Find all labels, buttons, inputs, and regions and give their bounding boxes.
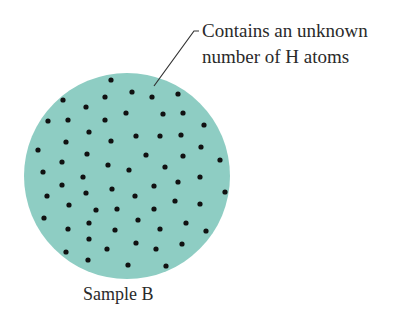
h-atom-dot xyxy=(65,226,70,231)
h-atom-dot xyxy=(93,207,98,212)
h-atom-dot xyxy=(217,157,222,162)
h-atom-dot xyxy=(198,144,203,149)
h-atom-dot xyxy=(201,122,206,127)
h-atom-dot xyxy=(197,174,202,179)
h-atom-dot xyxy=(123,110,128,115)
h-atom-dot xyxy=(175,179,180,184)
h-atom-dot xyxy=(132,193,137,198)
h-atom-dot xyxy=(60,97,65,102)
h-atom-dot xyxy=(129,89,134,94)
callout-text: Contains an unknown number of H atoms xyxy=(202,18,368,70)
sample-caption: Sample B xyxy=(83,284,154,305)
h-atom-dot xyxy=(35,147,40,152)
h-atom-dot xyxy=(86,236,91,241)
h-atom-dot xyxy=(175,91,180,96)
h-atom-dot xyxy=(86,129,91,134)
h-atom-dot xyxy=(180,153,185,158)
callout-line-1: Contains an unknown xyxy=(202,18,368,44)
h-atom-dot xyxy=(162,164,167,169)
h-atom-dot xyxy=(108,77,113,82)
h-atom-dot xyxy=(59,182,64,187)
h-atom-dot xyxy=(104,246,109,251)
h-atom-dot xyxy=(180,110,185,115)
h-atom-dot xyxy=(172,198,177,203)
h-atom-dot xyxy=(40,169,45,174)
h-atom-dot xyxy=(63,139,68,144)
h-atom-dot xyxy=(59,159,64,164)
h-atom-dot xyxy=(160,111,165,116)
h-atom-dot xyxy=(157,226,162,231)
h-atom-dot xyxy=(84,151,89,156)
h-atom-dot xyxy=(83,190,88,195)
h-atom-dot xyxy=(108,138,113,143)
h-atom-dot xyxy=(143,152,148,157)
h-atom-dot xyxy=(125,262,130,267)
h-atom-dot xyxy=(86,220,91,225)
h-atom-dot xyxy=(178,132,183,137)
h-atom-dot xyxy=(197,201,202,206)
h-atom-dot xyxy=(85,257,90,262)
h-atom-dot xyxy=(149,94,154,99)
h-atom-dot xyxy=(179,241,184,246)
h-atom-dot xyxy=(80,174,85,179)
h-atom-dot xyxy=(133,240,138,245)
h-atom-dot xyxy=(83,104,88,109)
h-atom-dot xyxy=(66,202,71,207)
h-atom-dot xyxy=(126,167,131,172)
h-atom-dot xyxy=(63,249,68,254)
callout-leader-line xyxy=(154,31,199,86)
h-atom-dot xyxy=(133,133,138,138)
h-atom-dot xyxy=(135,217,140,222)
h-atom-dot xyxy=(203,228,208,233)
h-atom-dot xyxy=(41,215,46,220)
h-atom-dot xyxy=(222,189,227,194)
callout-line-2: number of H atoms xyxy=(202,44,368,70)
h-atom-dot xyxy=(105,162,110,167)
h-atom-dot xyxy=(109,186,114,191)
h-atom-dot xyxy=(44,193,49,198)
h-atom-dot xyxy=(151,183,156,188)
h-atom-dot xyxy=(114,206,119,211)
h-atom-dot xyxy=(102,117,107,122)
h-atom-dot xyxy=(45,118,50,123)
h-atom-dot xyxy=(183,220,188,225)
h-atom-dot xyxy=(112,227,117,232)
h-atom-dot xyxy=(157,133,162,138)
h-atom-dot xyxy=(151,206,156,211)
h-atom-dot xyxy=(153,246,158,251)
h-atom-dot xyxy=(65,117,70,122)
h-atom-dot xyxy=(102,94,107,99)
h-atom-dot xyxy=(163,263,168,268)
